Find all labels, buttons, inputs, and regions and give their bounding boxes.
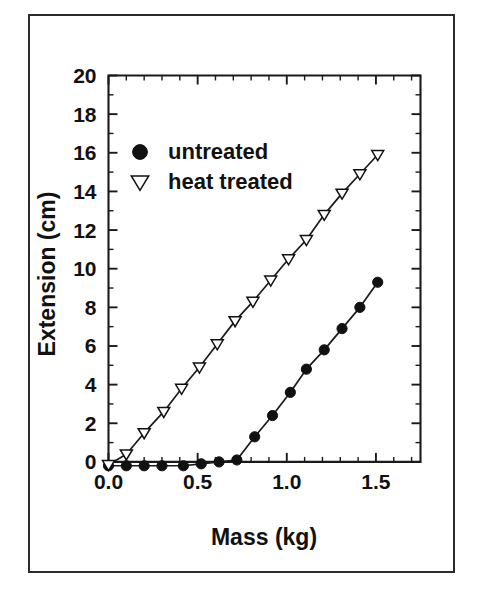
series-line bbox=[109, 155, 378, 465]
y-tick-label: 10 bbox=[73, 257, 96, 280]
data-point bbox=[120, 450, 132, 460]
y-tick-label: 2 bbox=[85, 412, 97, 435]
series-heat-treated bbox=[103, 151, 384, 471]
legend-label: heat treated bbox=[168, 169, 293, 194]
series-untreated bbox=[103, 277, 382, 471]
y-axis: 02468101214161820 bbox=[73, 64, 420, 473]
data-point bbox=[196, 459, 206, 469]
chart-area: 02468101214161820 0.00.51.01.5 untreated… bbox=[0, 0, 481, 596]
data-point bbox=[318, 210, 330, 220]
open-triangle-icon bbox=[131, 176, 148, 191]
legend-label: untreated bbox=[168, 139, 268, 164]
data-point bbox=[319, 345, 329, 355]
data-point bbox=[337, 323, 347, 333]
extension-vs-mass-chart: 02468101214161820 0.00.51.01.5 untreated… bbox=[0, 0, 481, 596]
legend-item-untreated: untreated bbox=[133, 139, 269, 164]
y-tick-label: 16 bbox=[73, 141, 96, 164]
x-tick-label: 0.5 bbox=[183, 470, 213, 493]
x-axis-title: Mass (kg) bbox=[211, 524, 317, 550]
data-point bbox=[301, 364, 311, 374]
y-axis-title: Extension (cm) bbox=[34, 192, 60, 357]
data-point bbox=[157, 461, 167, 471]
data-point bbox=[250, 432, 260, 442]
y-tick-label: 14 bbox=[73, 180, 97, 203]
data-point bbox=[178, 461, 188, 471]
x-tick-label: 1.0 bbox=[272, 470, 301, 493]
data-point bbox=[232, 455, 242, 465]
x-tick-label: 0.0 bbox=[94, 470, 123, 493]
y-tick-label: 18 bbox=[73, 103, 97, 126]
y-tick-label: 20 bbox=[73, 64, 96, 87]
plot-frame bbox=[109, 76, 421, 462]
data-point bbox=[355, 302, 365, 312]
y-tick-label: 8 bbox=[85, 296, 97, 319]
data-point bbox=[267, 410, 277, 420]
y-tick-label: 4 bbox=[85, 373, 97, 396]
filled-circle-icon bbox=[133, 145, 148, 160]
y-tick-label: 6 bbox=[85, 334, 97, 357]
chart-legend: untreatedheat treated bbox=[131, 139, 292, 194]
data-point bbox=[121, 461, 131, 471]
series-line bbox=[109, 282, 378, 466]
data-point bbox=[214, 457, 224, 467]
data-point bbox=[285, 387, 295, 397]
x-tick-label: 1.5 bbox=[361, 470, 391, 493]
data-series-group bbox=[103, 151, 384, 471]
legend-item-heat-treated: heat treated bbox=[131, 169, 292, 194]
data-point bbox=[373, 277, 383, 287]
y-tick-label: 12 bbox=[73, 219, 96, 242]
data-point bbox=[139, 461, 149, 471]
